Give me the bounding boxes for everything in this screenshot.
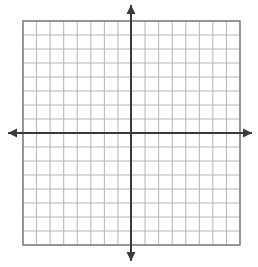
coordinate-grid-figure [0,0,258,267]
graph-canvas [0,0,258,267]
